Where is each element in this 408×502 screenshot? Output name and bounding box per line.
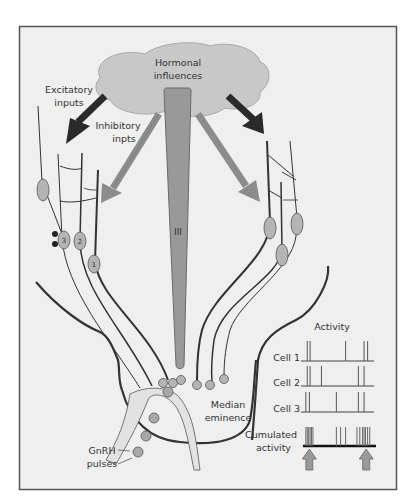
right-soma: [264, 217, 276, 239]
cell-number-3: 3: [62, 237, 66, 245]
right-soma: [291, 213, 303, 235]
activity-title: Activity: [314, 321, 350, 332]
activity-row-label: Cell 1: [273, 352, 300, 363]
hormonal-label-line2: influences: [154, 70, 203, 81]
synapse-dot: [52, 241, 58, 247]
excitatory-label-line1: Excitatory: [45, 84, 93, 95]
cell-number-1: 1: [92, 261, 96, 269]
gnrh-pulse-generator-diagram: Hormonal influences III Excitatory input…: [0, 0, 408, 502]
axon-terminal: [220, 375, 229, 384]
activity-row-label: Cell 3: [273, 403, 300, 414]
synapse-dot: [52, 231, 58, 237]
gnrh-cell-2: 2: [74, 232, 86, 250]
gnrh-label-line2: pulses: [87, 458, 117, 469]
inhibitory-label-line1: Inhibitory: [95, 120, 141, 131]
median-eminence-label-line2: eminence: [205, 412, 252, 423]
hormonal-label-line1: Hormonal: [155, 57, 201, 68]
axon-terminal: [206, 381, 215, 390]
cumulated-label-line1: Cumulated: [245, 429, 297, 440]
ventricle-label: III: [174, 227, 182, 237]
cell-number-2: 2: [78, 238, 82, 246]
excitatory-label-line2: inputs: [54, 97, 83, 108]
gnrh-cell-3: 3: [58, 231, 70, 249]
activity-row-label: Cell 2: [273, 377, 300, 388]
afferent-soma: [37, 179, 49, 201]
median-eminence-label-line1: Median: [211, 399, 246, 410]
cumulated-label-line2: activity: [256, 442, 291, 453]
gnrh-label-line1: GnRH: [88, 445, 115, 456]
gnrh-cell-1: 1: [88, 255, 100, 273]
axon-terminal: [193, 381, 202, 390]
right-soma: [276, 244, 288, 266]
inhibitory-label-line2: inpts: [112, 133, 135, 144]
